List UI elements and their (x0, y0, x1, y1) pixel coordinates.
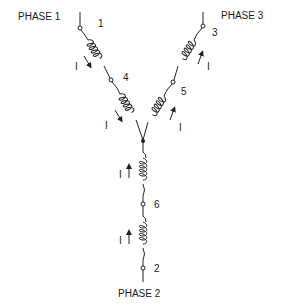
current-label: I (119, 169, 122, 180)
terminal-2-label: 2 (154, 263, 160, 274)
terminal-1 (78, 26, 82, 30)
current-arrow-icon (115, 110, 121, 120)
phase-2-label: PHASE 2 (118, 288, 161, 299)
terminal-4-label: 4 (123, 72, 129, 83)
current-label: I (179, 122, 182, 133)
current-label: I (75, 61, 78, 72)
terminal-3-label: 3 (212, 27, 218, 38)
current-arrow-icon (84, 56, 90, 66)
wye-connection-diagram: PHASE 1 PHASE 3 PHASE 2 (0, 0, 281, 307)
terminal-6-label: 6 (154, 199, 160, 210)
current-label: I (119, 235, 122, 246)
phase-2-branch (139, 141, 147, 282)
terminal-6 (141, 202, 145, 206)
terminal-2 (141, 266, 145, 270)
phase-1-label: PHASE 1 (18, 11, 61, 22)
terminal-5-label: 5 (181, 86, 187, 97)
current-arrow-icon (198, 53, 202, 64)
terminal-3 (201, 24, 205, 28)
terminal-1-label: 1 (98, 18, 104, 29)
phase-1-branch (78, 12, 143, 140)
terminal-4 (109, 78, 113, 82)
terminal-5 (171, 80, 175, 84)
phase-3-branch (143, 12, 205, 140)
current-arrow-icon (170, 109, 174, 120)
current-label: I (207, 61, 210, 72)
phase-3-label: PHASE 3 (221, 10, 264, 21)
current-label: I (105, 120, 108, 131)
